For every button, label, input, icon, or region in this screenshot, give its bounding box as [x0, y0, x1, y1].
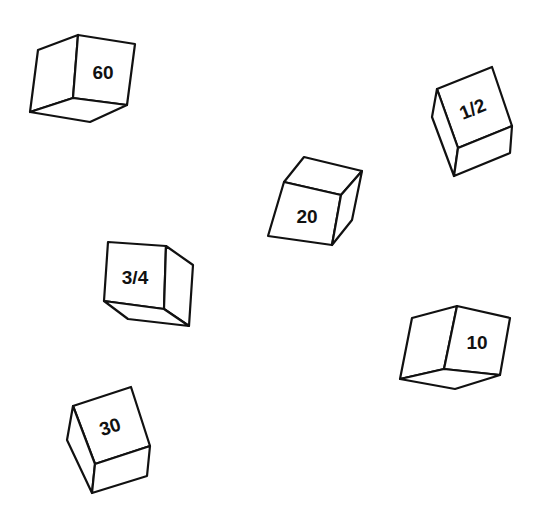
- cube-10: 10: [400, 306, 510, 389]
- cube-3-4-label: 3/4: [122, 267, 149, 288]
- cube-diagram: 60 1/2 20 3/4 10 30: [0, 0, 541, 528]
- cube-20-label: 20: [296, 206, 317, 227]
- cube-1-2: 1/2: [432, 67, 512, 176]
- cube-60: 60: [30, 35, 135, 122]
- cube-3-4: 3/4: [104, 242, 193, 326]
- cube-10-label: 10: [466, 332, 487, 353]
- cube-30: 30: [67, 387, 150, 493]
- cube-60-label: 60: [92, 62, 113, 83]
- cube-20: 20: [268, 157, 362, 245]
